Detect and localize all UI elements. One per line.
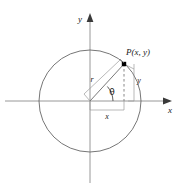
- radius-label: r: [90, 75, 94, 84]
- x-axis-group: [5, 98, 172, 105]
- point-p-marker: [122, 62, 126, 66]
- x-axis-arrowhead: [163, 98, 172, 105]
- theta-label: θ: [109, 87, 115, 97]
- figure-canvas: y x P(x, y) r θ x y: [0, 0, 185, 187]
- x-leg-label: x: [104, 112, 109, 121]
- x-axis-label: x: [167, 105, 172, 115]
- point-p-label: P(x, y): [125, 47, 150, 57]
- y-axis-arrowhead: [87, 13, 94, 22]
- radius-brace-tick-start: [84, 94, 90, 101]
- y-leg-brace: [124, 64, 134, 101]
- radius-line: [90, 64, 124, 101]
- x-leg-brace: [90, 101, 124, 110]
- y-leg-label: y: [136, 76, 141, 85]
- y-axis-label: y: [77, 14, 82, 24]
- trig-circle-figure: y x P(x, y) r θ x y: [0, 0, 185, 187]
